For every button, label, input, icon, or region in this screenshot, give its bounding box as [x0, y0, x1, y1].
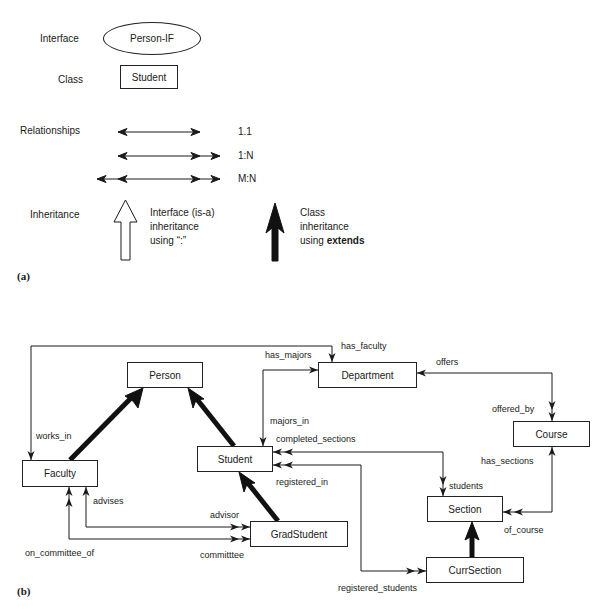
- class-grad-student-label: GradStudent: [271, 529, 328, 540]
- legend-interface-label: Interface: [40, 33, 79, 45]
- class-student[interactable]: Student: [197, 446, 273, 472]
- label-students: students: [449, 481, 483, 492]
- legend-interface-inheritance-text: Interface (is-a) inheritance using “:”: [150, 206, 214, 248]
- class-curr-section[interactable]: CurrSection: [426, 557, 524, 583]
- class-department[interactable]: Department: [318, 362, 417, 388]
- legend-relationships-label: Relationships: [20, 125, 80, 137]
- legend-class-inheritance-text: Class inheritance using extends: [300, 206, 364, 248]
- text-line: using “:”: [150, 234, 214, 248]
- class-curr-section-label: CurrSection: [449, 565, 502, 576]
- text-line: inheritance: [300, 220, 364, 234]
- label-of-course: of_course: [504, 525, 544, 536]
- label-has-sections: has_sections: [481, 456, 534, 467]
- class-section[interactable]: Section: [427, 496, 503, 522]
- label-majors-in: majors_in: [270, 416, 309, 427]
- class-course[interactable]: Course: [513, 421, 590, 447]
- label-on-committee-of: on_committee_of: [25, 548, 94, 559]
- class-faculty-label: Faculty: [44, 468, 76, 479]
- class-student-label: Student: [218, 454, 252, 465]
- class-person-label: Person: [149, 370, 181, 381]
- label-registered-students: registered_students: [338, 583, 417, 594]
- legend-arrow-m-n: [97, 176, 220, 183]
- label-advises: advises: [93, 496, 124, 507]
- label-works-in: works_in: [36, 431, 72, 442]
- legend-class-box: Student: [120, 65, 178, 89]
- panel-tag-a: (a): [17, 270, 30, 282]
- class-grad-student[interactable]: GradStudent: [250, 521, 348, 547]
- legend-cardinality-m-n: M:N: [238, 173, 256, 185]
- class-faculty[interactable]: Faculty: [22, 460, 98, 487]
- diagram-connectors: [0, 0, 612, 609]
- legend-arrow-1-1: [118, 129, 200, 136]
- legend-filled-arrow: [266, 203, 284, 261]
- label-advisor: advisor: [210, 510, 239, 521]
- class-course-label: Course: [535, 429, 567, 440]
- panel-tag-b: (b): [17, 585, 30, 597]
- class-department-label: Department: [341, 370, 393, 381]
- legend-interface-example: Person-IF: [130, 33, 174, 44]
- label-offers: offers: [436, 357, 458, 368]
- extends-keyword: extends: [327, 235, 365, 246]
- legend-cardinality-1-n: 1:N: [238, 150, 254, 162]
- text-line: Interface (is-a): [150, 206, 214, 220]
- text-line: using extends: [300, 234, 364, 248]
- legend-cardinality-1-1: 1.1: [238, 126, 252, 138]
- label-completed-sections: completed_sections: [276, 434, 356, 445]
- text-line: Class: [300, 206, 364, 220]
- legend-hollow-arrow: [114, 200, 137, 260]
- label-offered-by: offered_by: [492, 404, 534, 415]
- class-section-label: Section: [448, 504, 481, 515]
- class-person[interactable]: Person: [127, 362, 203, 388]
- legend-inheritance-label: Inheritance: [30, 209, 79, 221]
- legend-class-example: Student: [132, 72, 166, 83]
- label-registered-in: registered_in: [276, 477, 328, 488]
- label-has-majors: has_majors: [265, 350, 312, 361]
- label-has-faculty: has_faculty: [341, 341, 387, 352]
- legend-arrow-1-n: [118, 153, 220, 160]
- text-fragment: using: [300, 235, 327, 246]
- legend-interface-ellipse: Person-IF: [103, 22, 201, 55]
- text-line: inheritance: [150, 220, 214, 234]
- legend-class-label: Class: [58, 74, 83, 86]
- label-committee: committtee: [200, 550, 244, 561]
